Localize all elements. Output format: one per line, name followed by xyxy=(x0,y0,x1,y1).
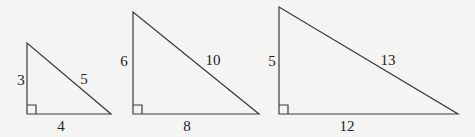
right-angle-marker-icon xyxy=(133,105,142,114)
side-label-horizontal-leg: 12 xyxy=(340,119,355,134)
side-label-hypotenuse: 5 xyxy=(80,72,88,87)
triangle-outline xyxy=(279,7,458,114)
side-label-horizontal-leg: 8 xyxy=(183,119,191,134)
right-triangle-5-12-13 xyxy=(279,7,458,114)
side-label-hypotenuse: 10 xyxy=(206,53,221,68)
right-angle-marker-icon xyxy=(279,105,288,114)
side-label-vertical-leg: 6 xyxy=(120,54,128,69)
side-label-hypotenuse: 13 xyxy=(381,53,396,68)
triangles-canvas xyxy=(0,0,475,137)
side-label-vertical-leg: 3 xyxy=(17,73,25,88)
side-label-horizontal-leg: 4 xyxy=(57,119,65,134)
side-label-vertical-leg: 5 xyxy=(268,54,276,69)
right-angle-marker-icon xyxy=(27,105,36,114)
triangle-outline xyxy=(133,12,259,114)
right-triangle-3-4-5 xyxy=(27,43,111,114)
right-triangle-6-8-10 xyxy=(133,12,259,114)
triangle-outline xyxy=(27,43,111,114)
